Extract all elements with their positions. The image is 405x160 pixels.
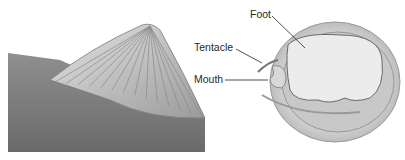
mouth-label: Mouth [194, 74, 223, 85]
foot-label: Foot [250, 9, 271, 20]
limpet-underside [258, 22, 400, 142]
tentacle-leader [236, 49, 262, 63]
tentacle-label: Tentacle [194, 42, 233, 53]
